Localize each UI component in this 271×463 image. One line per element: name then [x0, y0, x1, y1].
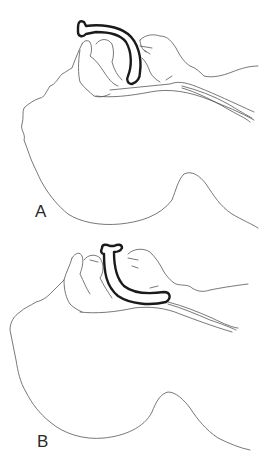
- illustration-b: [0, 232, 271, 463]
- panel-a: A: [0, 0, 271, 232]
- panel-b: B: [0, 232, 271, 463]
- illustration-a: [0, 0, 271, 232]
- panel-label-a: A: [35, 202, 46, 222]
- panel-label-b: B: [37, 432, 48, 452]
